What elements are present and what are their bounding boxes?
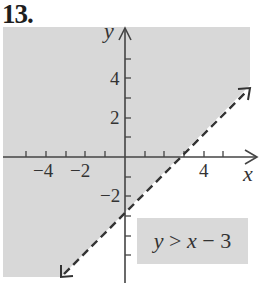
- x-tick-label-neg4: −4: [33, 160, 54, 181]
- inequality-label: y > x − 3: [137, 218, 248, 264]
- x-tick-label-4: 4: [199, 160, 209, 181]
- inequality-rhs-var: x: [187, 228, 197, 254]
- inequality-lhs: y: [154, 228, 164, 254]
- y-tick-label-2: 2: [110, 107, 120, 128]
- inequality-operator: >: [169, 228, 181, 254]
- y-axis-label: y: [102, 18, 114, 43]
- x-axis-label: x: [242, 161, 253, 186]
- inequality-rhs-rest: − 3: [202, 228, 231, 254]
- x-tick-label-neg2: −2: [70, 160, 90, 181]
- y-tick-label-4: 4: [110, 68, 120, 89]
- y-tick-label-neg2: −2: [100, 185, 120, 206]
